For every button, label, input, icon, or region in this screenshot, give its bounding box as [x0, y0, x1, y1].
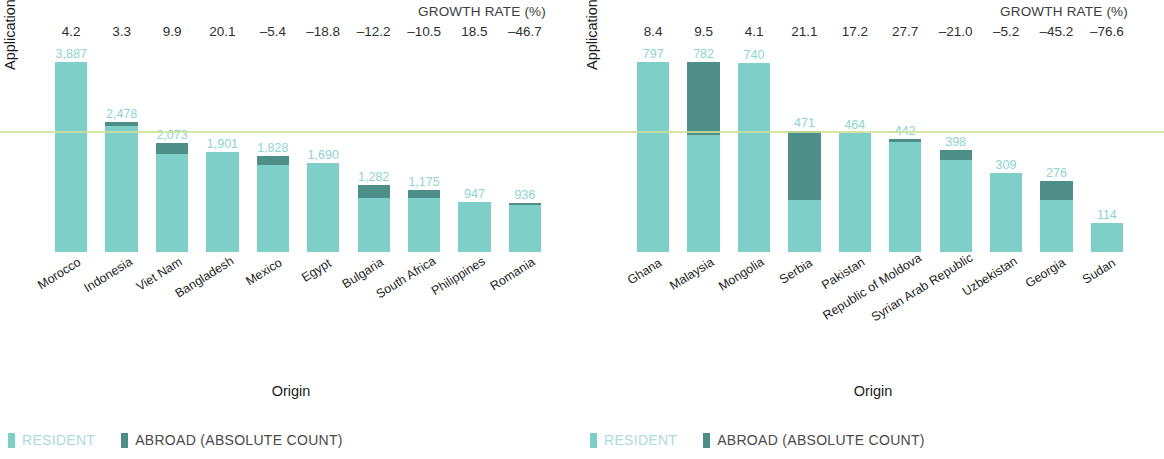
- growth-rate-value: –46.7: [500, 24, 550, 44]
- growth-rate-value: –76.6: [1082, 24, 1132, 44]
- bar-value-label: 398: [945, 136, 966, 148]
- bar-group[interactable]: 1,690: [298, 48, 348, 252]
- bar-segment-abroad[interactable]: [1040, 181, 1072, 199]
- stacked-bar[interactable]: [738, 63, 770, 252]
- bar-value-label: 936: [514, 189, 535, 201]
- bar-group[interactable]: 398: [930, 48, 980, 252]
- legend-label-abroad: ABROAD (ABSOLUTE COUNT): [717, 432, 925, 448]
- legend-left: RESIDENT ABROAD (ABSOLUTE COUNT): [8, 432, 343, 448]
- bar-segment-resident[interactable]: [738, 63, 770, 252]
- bar-segment-resident[interactable]: [940, 160, 972, 252]
- bar-segment-resident[interactable]: [990, 173, 1022, 252]
- stacked-bar[interactable]: [687, 62, 719, 252]
- bar-group[interactable]: 1,901: [197, 48, 247, 252]
- bar-group[interactable]: 3,887: [46, 48, 96, 252]
- bar-value-label: 464: [844, 119, 865, 131]
- stacked-bar[interactable]: [788, 131, 820, 252]
- bar-group[interactable]: 947: [449, 48, 499, 252]
- growth-rate-value: –21.0: [930, 24, 980, 44]
- bar-segment-resident[interactable]: [509, 205, 541, 252]
- stacked-bar[interactable]: [1091, 223, 1123, 252]
- chart-panel-right: GROWTH RATE (%) 8.49.54.121.117.227.7–21…: [582, 0, 1164, 459]
- bar-segment-resident[interactable]: [889, 142, 921, 252]
- stacked-bar[interactable]: [637, 62, 669, 252]
- x-axis-title-left: Origin: [0, 383, 582, 399]
- bar-group[interactable]: 471: [779, 48, 829, 252]
- bar-segment-resident[interactable]: [206, 152, 238, 252]
- x-axis-title-right: Origin: [582, 383, 1164, 399]
- bar-group[interactable]: 782: [678, 48, 728, 252]
- bar-segment-resident[interactable]: [105, 126, 137, 252]
- bar-segment-resident[interactable]: [257, 165, 289, 252]
- bar-segment-abroad[interactable]: [257, 156, 289, 165]
- stacked-bar[interactable]: [940, 150, 972, 252]
- growth-rate-value: 17.2: [830, 24, 880, 44]
- bar-group[interactable]: 797: [628, 48, 678, 252]
- bar-group[interactable]: 442: [880, 48, 930, 252]
- bar-segment-resident[interactable]: [55, 62, 87, 252]
- bar-segment-resident[interactable]: [687, 135, 719, 252]
- legend-item-resident-right: RESIDENT: [590, 432, 677, 448]
- bar-group[interactable]: 2,073: [147, 48, 197, 252]
- x-tick: Morocco: [46, 254, 96, 364]
- bar-group[interactable]: 2,478: [96, 48, 146, 252]
- bar-group[interactable]: 1,175: [399, 48, 449, 252]
- bar-group[interactable]: 936: [500, 48, 550, 252]
- bar-segment-abroad[interactable]: [408, 190, 440, 197]
- bar-group[interactable]: 464: [830, 48, 880, 252]
- bar-segment-resident[interactable]: [788, 200, 820, 252]
- bar-segment-abroad[interactable]: [156, 143, 188, 154]
- bar-segment-abroad[interactable]: [687, 62, 719, 135]
- bar-segment-resident[interactable]: [1040, 200, 1072, 252]
- bar-value-label: 1,828: [257, 142, 288, 154]
- bar-segment-resident[interactable]: [637, 62, 669, 252]
- x-tick: Philippines: [449, 254, 499, 364]
- stacked-bar[interactable]: [509, 203, 541, 252]
- stacked-bar[interactable]: [1040, 181, 1072, 252]
- bar-group[interactable]: 740: [729, 48, 779, 252]
- x-tick: Indonesia: [96, 254, 146, 364]
- bar-segment-abroad[interactable]: [358, 185, 390, 199]
- bar-segment-resident[interactable]: [458, 202, 490, 252]
- bar-segment-resident[interactable]: [156, 154, 188, 252]
- bar-group[interactable]: 276: [1031, 48, 1081, 252]
- stacked-bar[interactable]: [358, 185, 390, 252]
- bar-group[interactable]: 114: [1082, 48, 1132, 252]
- stacked-bar[interactable]: [408, 190, 440, 252]
- legend-item-abroad-right: ABROAD (ABSOLUTE COUNT): [703, 432, 925, 448]
- bar-group[interactable]: 1,828: [248, 48, 298, 252]
- x-tick: South Africa: [399, 254, 449, 364]
- x-tick: Sudan: [1082, 254, 1132, 364]
- bar-segment-resident[interactable]: [358, 198, 390, 252]
- bar-segment-resident[interactable]: [408, 198, 440, 252]
- stacked-bar[interactable]: [307, 163, 339, 252]
- bar-segment-resident[interactable]: [307, 163, 339, 252]
- bar-value-label: 782: [693, 48, 714, 60]
- x-tick: Georgia: [1031, 254, 1081, 364]
- bar-segment-abroad[interactable]: [788, 131, 820, 199]
- stacked-bar[interactable]: [55, 62, 87, 252]
- stacked-bar[interactable]: [990, 173, 1022, 252]
- stacked-bar[interactable]: [458, 202, 490, 252]
- stacked-bar[interactable]: [105, 122, 137, 252]
- bar-segment-abroad[interactable]: [940, 150, 972, 160]
- x-axis-tick-labels-right: GhanaMalaysiaMongoliaSerbiaPakistanRepub…: [628, 254, 1132, 364]
- stacked-bar[interactable]: [839, 133, 871, 252]
- bar-value-label: 1,690: [308, 149, 339, 161]
- x-tick: Uzbekistan: [981, 254, 1031, 364]
- stacked-bar[interactable]: [156, 143, 188, 252]
- bar-segment-resident[interactable]: [839, 133, 871, 252]
- growth-rate-value: –12.2: [348, 24, 398, 44]
- stacked-bar[interactable]: [206, 152, 238, 252]
- bar-segment-resident[interactable]: [1091, 223, 1123, 252]
- bar-group[interactable]: 1,282: [348, 48, 398, 252]
- bar-value-label: 114: [1097, 209, 1117, 221]
- stacked-bar[interactable]: [889, 139, 921, 252]
- x-tick-label: Mexico: [243, 255, 284, 288]
- x-tick: Mexico: [248, 254, 298, 364]
- legend-label-resident: RESIDENT: [22, 432, 95, 448]
- stacked-bar[interactable]: [257, 156, 289, 252]
- bar-group[interactable]: 309: [981, 48, 1031, 252]
- bar-value-label: 1,282: [358, 171, 389, 183]
- x-tick-label: Egypt: [299, 256, 334, 285]
